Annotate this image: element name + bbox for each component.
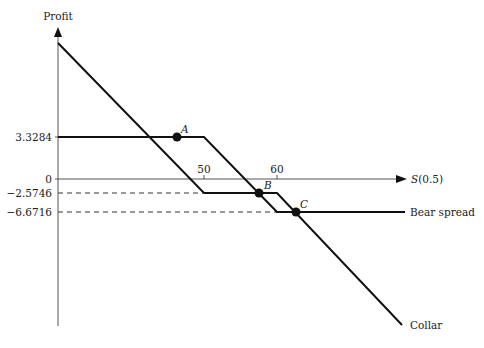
x-axis-arrow-icon [396,175,407,183]
y-tick-0: 0 [45,173,52,185]
profit-chart: Profit S(0.5) 50 60 3.3284 0 −2.5746 −6.… [0,0,484,348]
collar-line [58,43,402,325]
y-axis-label: Profit [43,10,73,22]
x-tick-60: 60 [270,163,283,175]
x-tick-50: 50 [197,163,210,175]
y-tick-neg-6-6716: −6.6716 [6,206,52,218]
reference-lines [58,193,277,212]
collar-label: Collar [410,319,443,331]
y-tick-neg-2-5746: −2.5746 [6,187,52,199]
y-axis: Profit [43,10,73,326]
point-c-label: C [300,198,308,210]
bear-spread-label: Bear spread [410,206,475,218]
x-axis-label: S(0.5) [411,173,443,185]
point-b-marker [255,189,264,198]
x-axis: S(0.5) 50 60 [58,163,443,185]
y-ticks: 3.3284 0 −2.5746 −6.6716 [6,131,58,218]
x-axis-label-main: S [411,173,418,185]
point-b-label: B [263,179,272,191]
point-a-label: A [180,123,189,135]
y-axis-arrow-icon [54,27,62,37]
x-axis-label-arg: (0.5) [418,173,443,185]
bear-spread-line [58,137,405,212]
y-tick-3-3284: 3.3284 [15,131,52,143]
